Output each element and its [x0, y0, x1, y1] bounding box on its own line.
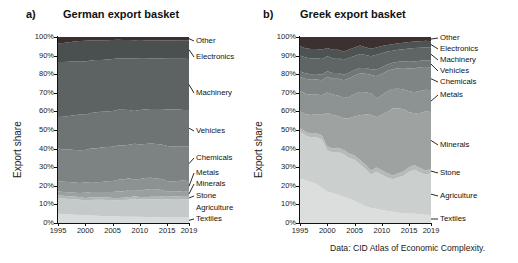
leader-line-machinery	[431, 54, 438, 60]
panel-german: a) German export basket Export share 0%1…	[0, 0, 258, 263]
series-annotation-minerals: Minerals	[440, 140, 469, 149]
series-annotation-machinery: Machinery	[440, 55, 476, 64]
series-annotation-other: Other	[196, 36, 216, 45]
leader-line-chemicals	[431, 79, 438, 82]
leader-line-other	[189, 39, 194, 41]
figure-root: a) German export basket Export share 0%1…	[0, 0, 518, 263]
leader-line-metals	[431, 95, 438, 101]
series-annotation-other: Other	[440, 33, 460, 42]
leader-line-electronics	[431, 44, 438, 49]
series-annotation-agriculture: Agriculture	[440, 191, 477, 200]
series-annotation-chemicals: Chemicals	[196, 153, 232, 162]
series-annotation-electronics: Electronics	[196, 52, 234, 61]
series-annotation-stone: Stone	[196, 191, 216, 200]
series-annotation-machinery: Machinery	[196, 88, 232, 97]
series-annotation-metals: Metals	[440, 90, 463, 99]
leader-line-stone	[189, 196, 194, 198]
leader-line-stone	[431, 171, 438, 173]
series-annotation-textiles: Textiles	[196, 214, 222, 223]
leader-line-minerals	[189, 184, 194, 194]
series-annotation-minerals: Minerals	[196, 179, 225, 188]
series-annotation-chemicals: Chemicals	[440, 77, 476, 86]
leader-line-textiles	[189, 219, 194, 220]
series-annotation-vehicles: Vehicles	[196, 126, 225, 135]
leader-line-electronics	[189, 50, 194, 57]
leader-line-minerals	[431, 140, 438, 145]
figure-caption: Data: CID Atlas of Economic Complexity.	[330, 243, 485, 253]
panel-greek: b) Greek export basket Export share 0%10…	[255, 0, 518, 263]
series-annotation-metals: Metals	[196, 168, 219, 177]
leader-line-metals	[189, 173, 194, 186]
leader-line-vehicles	[431, 64, 438, 71]
leader-line-agriculture	[431, 194, 438, 196]
series-annotation-agriculture: Agriculture	[196, 203, 233, 212]
leader-line-machinery	[189, 85, 194, 93]
series-annotation-textiles: Textiles	[440, 214, 466, 223]
leader-line-vehicles	[189, 128, 194, 131]
leader-line-other	[431, 38, 438, 39]
series-annotation-stone: Stone	[440, 168, 460, 177]
series-annotation-electronics: Electronics	[440, 44, 478, 53]
leader-lines-b	[255, 0, 518, 263]
series-annotation-vehicles: Vehicles	[440, 66, 469, 75]
leader-line-chemicals	[189, 158, 194, 164]
